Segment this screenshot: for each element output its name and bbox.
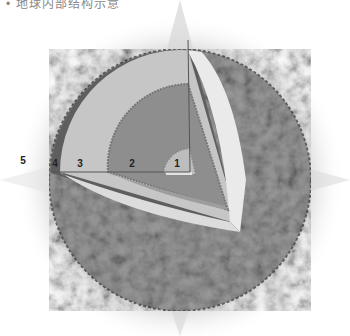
layer-label-3: 3 [77,158,83,169]
layer-label-1: 1 [174,158,180,169]
layer-label-5: 5 [20,155,26,166]
layer-label-2: 2 [129,158,135,169]
layer-label-4: 4 [52,158,58,169]
